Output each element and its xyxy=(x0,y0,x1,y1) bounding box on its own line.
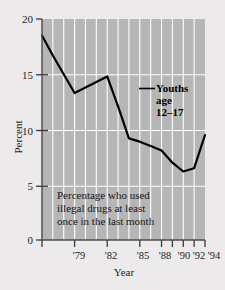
caption-line-2: illegal drugs at least xyxy=(57,202,145,214)
ytick-label-15: 15 xyxy=(22,69,34,81)
x-axis-title: Year xyxy=(114,266,135,278)
xtick-label-82: '82 xyxy=(105,250,117,261)
xtick-label-92: '92 xyxy=(193,250,205,261)
ytick-label-0: 0 xyxy=(28,234,34,246)
ytick-label-5: 5 xyxy=(28,180,34,192)
xtick-label-79: '79 xyxy=(73,250,85,261)
xtick-label-90: '90 xyxy=(178,250,190,261)
y-axis-title: Percent xyxy=(12,121,24,154)
xtick-label-85: '85 xyxy=(137,250,149,261)
ytick-label-20: 20 xyxy=(22,13,34,25)
line-chart: Youths age 12–17 Percentage who used ill… xyxy=(0,0,225,290)
caption-line-3: once in the last month xyxy=(57,215,155,227)
annotation-label-line-2: age xyxy=(156,94,172,106)
xtick-label-94: '94 xyxy=(208,250,221,261)
xtick-label-88: '88 xyxy=(159,250,171,261)
annotation-label-line-3: 12–17 xyxy=(156,106,184,118)
annotation-label-line-1: Youths xyxy=(156,82,189,94)
chart-figure: Youths age 12–17 Percentage who used ill… xyxy=(0,0,225,290)
caption-line-1: Percentage who used xyxy=(57,189,150,201)
